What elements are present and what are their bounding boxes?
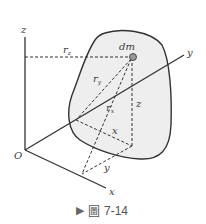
z-axis-label: z bbox=[20, 24, 27, 35]
x-axis-label: x bbox=[109, 186, 115, 197]
dm-label: dm bbox=[119, 41, 135, 52]
caption-arrow-icon: ▶ bbox=[76, 204, 84, 217]
z-coordinate-label: z bbox=[135, 98, 142, 109]
x-coordinate-label: x bbox=[112, 125, 118, 136]
figure-caption: ▶ 圖 7-14 bbox=[76, 202, 128, 219]
origin-label: O bbox=[14, 150, 22, 161]
mass-element-dot bbox=[130, 54, 137, 61]
y-coordinate-label: y bbox=[103, 162, 110, 173]
x-axis bbox=[25, 150, 106, 188]
caption-number: 7-14 bbox=[104, 204, 128, 218]
y-axis-label: y bbox=[186, 47, 193, 58]
caption-prefix: 圖 bbox=[88, 202, 100, 219]
moment-of-inertia-diagram: z y x O dm rz ry rx z x y bbox=[0, 0, 206, 224]
rz-label: rz bbox=[63, 44, 72, 56]
